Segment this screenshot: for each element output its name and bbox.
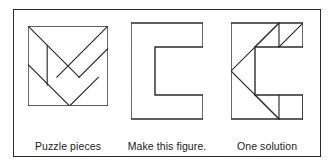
caption-puzzle-pieces: Puzzle pieces [20, 140, 116, 152]
target-figure-drawing [118, 16, 216, 129]
solution-letter-c-svg [231, 19, 303, 123]
caption-one-solution: One solution [218, 140, 316, 152]
panel-one-solution: One solution [218, 16, 316, 152]
illustration-frame: Puzzle pieces Make this figure. [13, 9, 321, 157]
solution-outline [231, 23, 303, 119]
block-letter-c-svg [131, 19, 203, 123]
tangram-illustration: Puzzle pieces Make this figure. [0, 0, 335, 165]
solution-figure-drawing [218, 16, 316, 129]
panel-puzzle-pieces: Puzzle pieces [20, 16, 116, 152]
letter-c-outline [131, 23, 203, 119]
puzzle-pieces-figure [20, 16, 116, 129]
tangram-square-svg [28, 26, 108, 106]
caption-make-this-figure: Make this figure. [118, 140, 216, 152]
panel-target-figure: Make this figure. [118, 16, 216, 152]
